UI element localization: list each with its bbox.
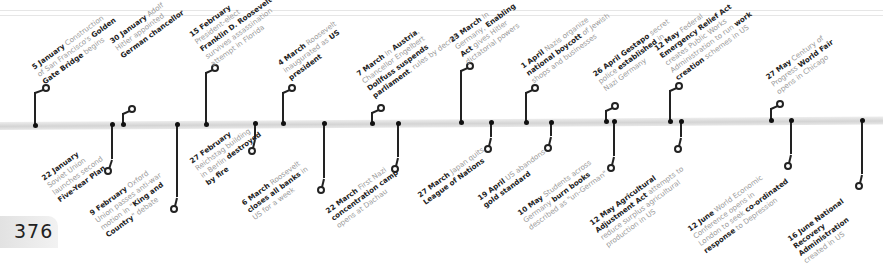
event-connector-line [176, 124, 178, 197]
timeline-dot [789, 118, 794, 123]
event-marker-circle [855, 182, 863, 190]
timeline-dot [459, 120, 464, 125]
timeline-dot [396, 121, 401, 126]
timeline-dot [204, 122, 209, 127]
timeline-dot [322, 121, 327, 126]
event-connector-line [525, 92, 527, 122]
event-connector-line [613, 121, 615, 156]
event-connector-line [861, 120, 863, 174]
timeline-dot [860, 118, 865, 123]
event-marker-circle [544, 144, 552, 152]
timeline-dot [524, 120, 529, 125]
timeline-dot [612, 119, 617, 124]
event-connector-line [460, 70, 462, 122]
event-connector-line [397, 123, 399, 157]
event-marker-circle [317, 186, 325, 194]
event-label: 16 June NationalRecoveryAdministrationcr… [786, 197, 861, 265]
event-marker-circle [128, 105, 136, 113]
timeline-dot [489, 120, 494, 125]
event-marker-circle [675, 82, 683, 90]
event-connector-line [205, 72, 207, 124]
event-marker-circle [607, 164, 615, 172]
timeline-dot [370, 121, 375, 126]
event-label: 6 March Rooseveltcloses all banks inUS f… [240, 157, 315, 222]
timeline-dot [549, 120, 554, 125]
event-marker-circle [170, 205, 178, 213]
timeline-bar [0, 117, 883, 130]
event-connector-line [669, 90, 671, 121]
event-label: 5 January Constructionof San Francisco's… [30, 8, 123, 86]
timeline-dot [121, 122, 126, 127]
event-marker-circle [674, 145, 682, 153]
event-label: 4 March Rooseveltinaugurated as USpresid… [276, 19, 348, 82]
event-marker-circle [288, 84, 296, 92]
event-label-line: 27 March Japan quits [416, 145, 486, 199]
event-marker-circle [531, 84, 539, 92]
timeline-dot [668, 119, 673, 124]
event-connector-line [323, 123, 325, 178]
event-label: 27 May Century ofProgress World Fairopen… [764, 30, 840, 96]
event-marker-circle [611, 102, 619, 110]
event-connector-line [282, 92, 284, 123]
event-label: 12 June World EconomicConference opens i… [686, 162, 795, 255]
event-label: 7 March In Austria,Chancellor EngelbertD… [355, 9, 461, 100]
event-label: 22 March First Naziconcentration campope… [324, 161, 405, 230]
timeline-dot [33, 123, 38, 128]
event-connector-line [790, 120, 792, 154]
timeline-dot [175, 122, 180, 127]
event-label: 30 January AdolfHitler appointedGerman c… [108, 0, 185, 60]
event-label: 22 JanuarySoviet Unionlaunches secondFiv… [40, 140, 110, 204]
timeline-dot [769, 118, 774, 123]
event-connector-line [34, 92, 36, 125]
event-marker-circle [776, 100, 784, 108]
page-number-tab: 376 [0, 216, 58, 248]
timeline-dot [110, 122, 115, 127]
event-label-line: of San Francisco's Golden [35, 16, 117, 79]
timeline-dot [679, 119, 684, 124]
event-marker-circle [784, 162, 792, 170]
timeline-dot [604, 119, 609, 124]
timeline-dot [281, 121, 286, 126]
event-connector-line [111, 124, 113, 159]
page-number: 376 [14, 220, 53, 242]
event-marker-circle [377, 104, 385, 112]
